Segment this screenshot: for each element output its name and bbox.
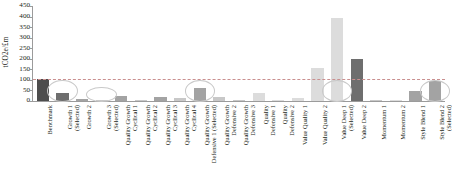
bar-10[interactable]: [233, 100, 245, 101]
x-tick-label-20: Style Blend 2(Selected): [438, 103, 448, 187]
y-tick-label-250: 250: [4, 45, 30, 52]
plot-area: [33, 6, 445, 101]
highlight-quality-growth-defensive-1-ring-icon: [185, 80, 215, 102]
x-axis-labels: BenchmarkGrowth 1(Selected)Growth 2Growt…: [33, 103, 445, 188]
x-tick-label-16: Value Deep 2: [360, 103, 370, 187]
x-tick-label-10: Quality GrowthDefensive 3: [242, 103, 252, 187]
highlight-growth-1-ring-icon: [47, 80, 77, 102]
x-tick-label-4-line2: Cyclical 1: [131, 105, 138, 187]
highlight-growth-3-ring-icon: [86, 87, 116, 102]
y-tick-label-0: 0: [4, 97, 30, 104]
bar-2[interactable]: [76, 99, 88, 101]
x-tick-label-7: Quality GrowthCyclical 4: [183, 103, 193, 187]
x-tick-label-18-line1: Momentum 2: [399, 105, 406, 187]
x-tick-label-9-line2: Defensive 2: [230, 105, 237, 187]
y-tick-label-50: 50: [4, 87, 30, 94]
benchmark-reference-line: [33, 79, 445, 80]
x-tick-label-14-line1: Value Quality 2: [321, 105, 328, 187]
y-tick-label-300: 300: [4, 34, 30, 41]
bar-7[interactable]: [174, 98, 186, 101]
y-tick-label-400: 400: [4, 13, 30, 20]
y-tick-label-350: 350: [4, 24, 30, 31]
bar-17[interactable]: [370, 100, 382, 101]
y-tick-label-450: 450: [4, 2, 30, 9]
x-tick-label-13: Value Quality 1: [301, 103, 311, 187]
x-tick-label-2: Growth 2: [85, 103, 95, 187]
bar-9[interactable]: [213, 97, 225, 101]
x-tick-label-0-line1: Benchmark: [46, 105, 53, 187]
x-tick-label-3-line2: (Selected): [112, 105, 119, 187]
x-tick-label-18: Momentum 2: [399, 103, 409, 187]
x-tick-label-17: Momentum 1: [380, 103, 390, 187]
x-tick-label-3-line1: Growth 3: [105, 105, 112, 187]
bar-11[interactable]: [253, 93, 265, 101]
x-tick-label-11-line2: Defensive 1: [269, 105, 276, 187]
x-tick-label-10-line2: Defensive 3: [249, 105, 256, 187]
x-tick-label-6: Quality GrowthCyclical 3: [164, 103, 174, 187]
x-tick-label-5: Quality GrowthCyclical 2: [144, 103, 154, 187]
bar-4[interactable]: [115, 96, 127, 101]
x-tick-label-7-line2: Cyclical 4: [190, 105, 197, 187]
x-tick-label-2-line1: Growth 2: [85, 105, 92, 187]
bar-16[interactable]: [351, 59, 363, 101]
bar-5[interactable]: [135, 100, 147, 101]
bar-18[interactable]: [390, 100, 402, 101]
highlight-value-deep-1-ring-icon: [322, 80, 352, 102]
x-tick-label-1: Growth 1(Selected): [66, 103, 76, 187]
y-tick-label-200: 200: [4, 55, 30, 62]
x-tick-label-8-line1: Quality Growth: [203, 105, 210, 187]
bar-13[interactable]: [292, 98, 304, 101]
x-tick-label-1-line2: (Selected): [73, 105, 80, 187]
x-tick-label-14: Value Quality 2: [321, 103, 331, 187]
x-tick-label-16-line1: Value Deep 2: [360, 105, 367, 187]
y-tick-label-150: 150: [4, 66, 30, 73]
x-tick-label-19: Style Blend 1: [419, 103, 429, 187]
x-tick-label-0: Benchmark: [46, 103, 56, 187]
x-tick-label-9-line1: Quality Growth: [223, 105, 230, 187]
x-tick-label-6-line1: Quality Growth: [164, 105, 171, 187]
x-tick-label-9: Quality GrowthDefensive 2: [223, 103, 233, 187]
x-tick-label-11-line1: Quality: [262, 105, 269, 187]
x-tick-label-8: Quality GrowthDefensive 1 (Selected): [203, 103, 213, 187]
x-tick-label-12-line2: Defensive 2: [288, 105, 295, 187]
x-tick-label-4: Quality GrowthCyclical 1: [124, 103, 134, 187]
x-tick-label-15: Value Deep 1(Selected): [340, 103, 350, 187]
x-tick-label-11: QualityDefensive 1: [262, 103, 272, 187]
x-tick-label-12: QualityDefensive 2: [281, 103, 291, 187]
y-tick-label-100: 100: [4, 76, 30, 83]
x-tick-label-8-line2: Defensive 1 (Selected): [210, 105, 217, 187]
highlight-style-blend-2-ring-icon: [420, 80, 450, 102]
x-tick-label-5-line2: Cyclical 2: [151, 105, 158, 187]
x-tick-label-1-line1: Growth 1: [66, 105, 73, 187]
x-tick-label-13-line1: Value Quality 1: [301, 105, 308, 187]
bar-12[interactable]: [272, 100, 284, 101]
bar-14[interactable]: [311, 68, 323, 101]
x-tick-label-6-line2: Cyclical 3: [171, 105, 178, 187]
x-tick-label-20-line2: (Selected): [445, 105, 452, 187]
x-tick-label-15-line2: (Selected): [347, 105, 354, 187]
x-tick-label-19-line1: Style Blend 1: [419, 105, 426, 187]
bar-6[interactable]: [154, 97, 166, 101]
y-axis-ticks: 050100150200250300350400450: [0, 0, 30, 107]
x-tick-label-3: Growth 3(Selected): [105, 103, 115, 187]
x-tick-label-17-line1: Momentum 1: [380, 105, 387, 187]
